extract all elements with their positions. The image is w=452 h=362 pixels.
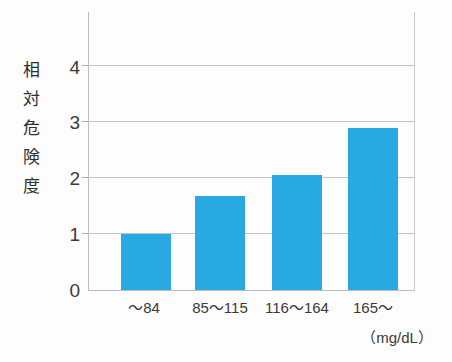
x-axis-unit-label: （mg/dL） (352, 329, 442, 346)
x-tick-label-1: 85〜115 (180, 300, 260, 316)
tick-stub-3 (82, 121, 88, 122)
x-tick-label-2: 116〜164 (257, 300, 337, 316)
plot-right-border (414, 12, 415, 291)
bar-chart: 相 対 危 険 度 4 3 2 1 0 〜84 85〜115 116 (0, 0, 452, 362)
y-tick-label-2: 2 (58, 169, 80, 188)
gridline-3 (88, 121, 415, 122)
plot-area (88, 12, 415, 291)
tick-stub-4 (82, 65, 88, 66)
y-axis-title: 相 対 危 険 度 (14, 56, 48, 201)
y-axis-line (88, 12, 89, 291)
bar-0 (121, 234, 171, 290)
y-tick-label-4: 4 (58, 58, 80, 77)
tick-stub-2 (82, 177, 88, 178)
tick-stub-1 (82, 233, 88, 234)
bar-1 (195, 196, 245, 290)
y-tick-label-1: 1 (58, 225, 80, 244)
bar-3 (348, 128, 398, 290)
x-tick-label-3: 165〜 (333, 300, 413, 316)
x-tick-label-0: 〜84 (104, 300, 184, 316)
gridline-4 (88, 65, 415, 66)
y-tick-label-3: 3 (58, 113, 80, 132)
x-axis-line (88, 290, 415, 291)
bar-2 (272, 175, 322, 290)
y-tick-label-0: 0 (58, 281, 80, 300)
